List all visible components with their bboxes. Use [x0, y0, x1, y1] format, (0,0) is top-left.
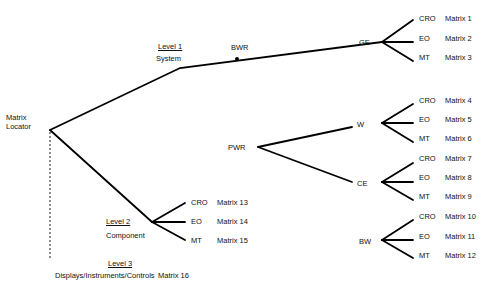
- leaf-matrix: Matrix 13: [217, 198, 248, 207]
- level3-matrix: Matrix 16: [158, 271, 189, 280]
- leaf-matrix: Matrix 9: [445, 192, 472, 201]
- leaf-type: CRO: [419, 154, 436, 163]
- vendor-bw-label: BW: [359, 237, 371, 246]
- branch-pwr-ce-line: [258, 147, 352, 182]
- leaf-matrix: Matrix 8: [445, 173, 472, 182]
- bwr-label: BWR: [231, 43, 249, 52]
- branch-system-line: [50, 42, 382, 130]
- leaf-type: MT: [419, 53, 430, 62]
- level1-name: System: [156, 54, 181, 63]
- leaf-matrix: Matrix 5: [445, 115, 472, 124]
- vendor-ce-label: CE: [357, 179, 367, 188]
- leaf-matrix: Matrix 1: [445, 14, 472, 23]
- leaf-matrix: Matrix 12: [445, 251, 476, 260]
- leaf-type: MT: [419, 251, 430, 260]
- level2-title: Level 2: [106, 217, 130, 226]
- branch-pwr-w-line: [258, 127, 352, 147]
- leaf-matrix: Matrix 3: [445, 53, 472, 62]
- leaf-type: EO: [419, 115, 430, 124]
- branch-component-line: [50, 130, 152, 222]
- leaf-type: CRO: [419, 96, 436, 105]
- leaf-type: MT: [419, 192, 430, 201]
- root-label-line2: Locator: [6, 122, 31, 131]
- vendor-w-label: W: [357, 120, 364, 129]
- leaf-type: MT: [419, 134, 430, 143]
- vendor-ge-label: GE: [359, 38, 370, 47]
- pwr-label: PWR: [228, 143, 246, 152]
- leaf-type: CRO: [419, 212, 436, 221]
- leaf-matrix: Matrix 4: [445, 96, 472, 105]
- leaf-matrix: Matrix 14: [217, 217, 248, 226]
- leaf-matrix: Matrix 11: [445, 232, 475, 241]
- leaf-matrix: Matrix 2: [445, 34, 472, 43]
- leaf-matrix: Matrix 7: [445, 154, 472, 163]
- leaf-type: EO: [191, 217, 202, 226]
- leaf-type: MT: [191, 236, 202, 245]
- leaf-matrix: Matrix 15: [217, 236, 248, 245]
- level1-title: Level 1: [158, 42, 182, 51]
- leaf-type: CRO: [191, 198, 208, 207]
- leaf-type: EO: [419, 173, 430, 182]
- root-label-line1: Matrix: [6, 113, 26, 122]
- leaf-type: EO: [419, 34, 430, 43]
- leaf-matrix: Matrix 10: [445, 212, 476, 221]
- level2-name: Component: [106, 231, 145, 240]
- leaf-type: EO: [419, 232, 430, 241]
- bwr-node-dot: [235, 57, 239, 61]
- leaf-matrix: Matrix 6: [445, 134, 472, 143]
- level3-title: Level 3: [108, 259, 132, 268]
- level3-name: Displays/Instruments/Controls: [55, 271, 155, 280]
- leaf-type: CRO: [419, 14, 436, 23]
